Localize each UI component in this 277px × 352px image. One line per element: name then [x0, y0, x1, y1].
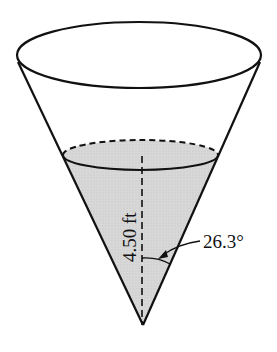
height-label: 4.50 ft [119, 212, 140, 262]
cone-top-rim [17, 22, 261, 88]
liquid-region [63, 155, 218, 325]
angle-label: 26.3° [203, 231, 244, 252]
cone-diagram: 4.50 ft 26.3° [0, 0, 277, 352]
